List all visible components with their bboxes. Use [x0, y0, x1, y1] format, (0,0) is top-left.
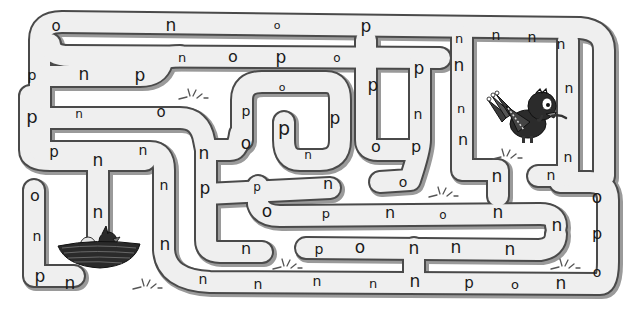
maze-letter-n[interactable]: n — [564, 150, 573, 164]
maze-letter-n[interactable]: n — [410, 273, 421, 290]
maze-letter-n[interactable]: n — [505, 241, 516, 258]
maze-letter-o[interactable]: o — [262, 203, 272, 220]
maze-letter-n[interactable]: n — [385, 205, 395, 221]
maze-letter-p[interactable]: p — [276, 49, 287, 66]
grass-tuft-decoration — [130, 276, 164, 292]
maze-letter-n[interactable]: n — [457, 102, 465, 115]
maze-letter-p[interactable]: p — [464, 276, 474, 291]
maze-letter-n[interactable]: n — [199, 145, 210, 162]
maze-letter-p[interactable]: p — [368, 77, 379, 94]
maze-letter-p[interactable]: p — [411, 139, 421, 155]
maze-letter-n[interactable]: n — [547, 168, 556, 182]
maze-letter-p[interactable]: p — [135, 67, 146, 84]
maze-letter-p[interactable]: p — [28, 68, 37, 82]
maze-letter-o[interactable]: o — [51, 19, 60, 34]
maze-letter-n[interactable]: n — [75, 108, 83, 120]
maze-letter-n[interactable]: n — [33, 229, 42, 243]
grass-tuft-decoration — [548, 256, 582, 272]
maze-letter-p[interactable]: p — [592, 226, 602, 242]
maze-letter-n[interactable]: n — [65, 275, 76, 292]
maze-letter-p[interactable]: p — [26, 108, 37, 126]
maze-letter-n[interactable]: n — [241, 241, 251, 257]
maze-letter-o[interactable]: o — [439, 209, 446, 221]
maze-letter-n[interactable]: n — [199, 272, 208, 286]
maze-letter-n[interactable]: n — [178, 51, 186, 64]
maze-letter-n[interactable]: n — [254, 277, 263, 291]
maze-letter-o[interactable]: o — [333, 52, 340, 64]
maze-letter-o[interactable]: o — [355, 239, 365, 256]
maze-letter-n[interactable]: n — [139, 143, 148, 157]
maze-letter-n[interactable]: n — [492, 168, 503, 185]
maze-letter-p[interactable]: p — [330, 110, 341, 127]
maze-letter-o[interactable]: o — [399, 175, 408, 189]
grass-tuft-decoration — [176, 86, 210, 102]
maze-letter-o[interactable]: o — [228, 49, 238, 65]
maze-letter-p[interactable]: p — [35, 268, 46, 285]
maze-letter-o[interactable]: o — [241, 135, 251, 152]
maze-letter-p[interactable]: p — [242, 104, 251, 118]
maze-letter-p[interactable]: p — [49, 145, 59, 160]
grass-tuft-decoration — [426, 184, 460, 200]
maze-letter-o[interactable]: o — [279, 82, 286, 93]
maze-letter-n[interactable]: n — [79, 66, 90, 83]
maze-letter-p[interactable]: p — [315, 242, 324, 256]
maze-letter-n[interactable]: n — [556, 275, 567, 292]
maze-letter-n[interactable]: n — [493, 204, 504, 221]
maze-letter-o[interactable]: o — [592, 189, 602, 206]
maze-letter-n[interactable]: n — [528, 30, 537, 44]
maze-letter-n[interactable]: n — [160, 178, 169, 192]
maze-letter-p[interactable]: p — [278, 119, 290, 138]
maze-letter-n[interactable]: n — [552, 217, 563, 234]
maze-letter-n[interactable]: n — [93, 204, 104, 221]
nest-icon[interactable] — [56, 226, 142, 272]
maze-letter-n[interactable]: n — [409, 240, 420, 257]
maze-letter-n[interactable]: n — [492, 28, 501, 42]
maze-letter-n[interactable]: n — [304, 149, 312, 161]
maze-letter-n[interactable]: n — [166, 17, 177, 34]
maze-letter-n[interactable]: n — [451, 239, 462, 256]
bird-icon[interactable] — [484, 86, 570, 150]
maze-letter-n[interactable]: n — [557, 37, 566, 51]
maze-letter-p[interactable]: p — [361, 18, 372, 35]
grass-tuft-decoration — [270, 256, 304, 272]
maze-letter-p[interactable]: p — [414, 60, 425, 77]
maze-letter-p[interactable]: p — [322, 207, 330, 220]
maze-letter-o[interactable]: o — [156, 105, 165, 120]
maze-letter-p[interactable]: p — [200, 180, 211, 197]
maze-letter-n[interactable]: n — [313, 274, 322, 288]
maze-letter-n[interactable]: n — [454, 57, 465, 74]
maze-letter-n[interactable]: n — [323, 176, 333, 192]
maze-letter-n[interactable]: n — [369, 277, 377, 290]
maze-letter-o[interactable]: o — [593, 265, 602, 279]
maze-letter-n[interactable]: n — [458, 132, 468, 148]
maze-letter-n[interactable]: n — [160, 236, 171, 253]
maze-letter-o[interactable]: o — [511, 278, 519, 291]
maze-letter-o[interactable]: o — [30, 188, 40, 204]
maze-letter-p[interactable]: p — [253, 181, 261, 193]
maze-letter-o[interactable]: o — [274, 20, 281, 31]
maze-letter-n[interactable]: n — [93, 152, 104, 169]
maze-letter-n[interactable]: n — [414, 107, 423, 121]
maze-letter-o[interactable]: o — [371, 139, 381, 155]
maze-letter-n[interactable]: n — [455, 32, 463, 45]
